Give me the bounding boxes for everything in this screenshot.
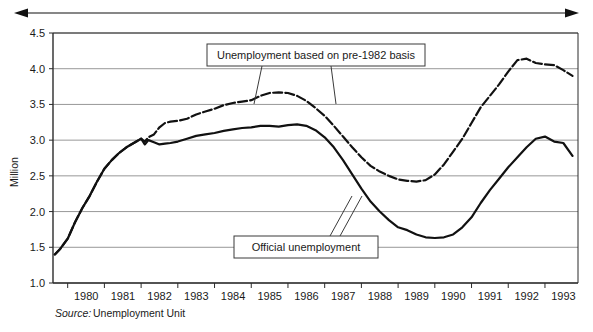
y-axis-tick-label: 2.5 [30, 170, 45, 182]
x-axis-tick-label: 1982 [147, 290, 171, 302]
x-axis-tick-label: 1981 [111, 290, 135, 302]
y-axis-tick-label: 3.0 [30, 134, 45, 146]
x-axis-tick-label: 1983 [184, 290, 208, 302]
annotation-label-pre-1982: Unemployment based on pre-1982 basis [217, 49, 416, 61]
x-axis-tick-label: 1992 [515, 290, 539, 302]
x-axis-tick-label: 1980 [74, 290, 98, 302]
unemployment-line-chart: 1.01.52.02.53.03.54.04.5 198019811982198… [0, 0, 593, 332]
x-axis-tick-label: 1987 [331, 290, 355, 302]
x-axis-tick-label: 1985 [258, 290, 282, 302]
x-axis-tick-label: 1991 [478, 290, 502, 302]
source-prefix: Source: [55, 307, 91, 319]
y-axis-tick-label: 4.0 [30, 63, 45, 75]
annotation-label-official: Official unemployment [252, 241, 361, 253]
source-value: Unemployment Unit [93, 307, 185, 319]
x-axis-tick-label: 1993 [551, 290, 575, 302]
y-axis-tick-label: 4.5 [30, 27, 45, 39]
x-axis-tick-label: 1990 [441, 290, 465, 302]
y-axis-tick-label: 3.5 [30, 98, 45, 110]
y-axis-tick-label: 1.0 [30, 277, 45, 289]
y-axis-tick-label: 1.5 [30, 241, 45, 253]
x-axis-tick-label: 1988 [368, 290, 392, 302]
chart-canvas: 1.01.52.02.53.03.54.04.5 198019811982198… [0, 0, 593, 332]
y-axis-title: Million [8, 157, 20, 187]
x-axis-tick-label: 1986 [294, 290, 318, 302]
y-axis-tick-label: 2.0 [30, 206, 45, 218]
x-axis-tick-label: 1989 [404, 290, 428, 302]
source-note: Source: Unemployment Unit [55, 307, 185, 319]
x-axis-tick-label: 1984 [221, 290, 245, 302]
